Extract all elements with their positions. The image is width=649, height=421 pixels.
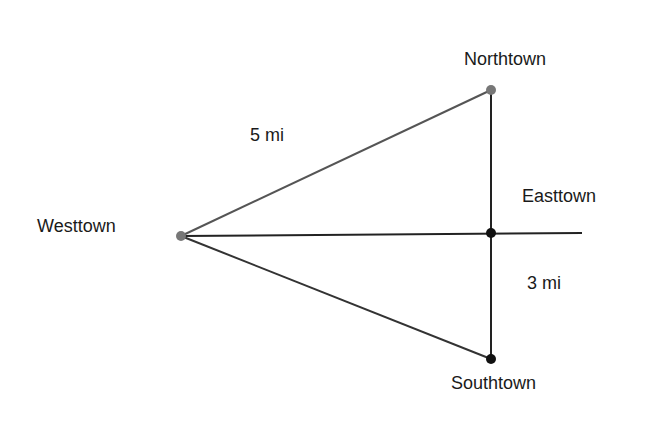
town-diagram [0, 0, 649, 421]
node-westtown-dot [176, 231, 186, 241]
node-northtown-dot [486, 85, 496, 95]
edge-westtown-east-horizontal [181, 233, 582, 236]
label-northtown: Northtown [464, 50, 546, 68]
label-southtown: Southtown [451, 374, 536, 392]
distance-label-3mi: 3 mi [527, 274, 561, 292]
edge-westtown-northtown [181, 90, 491, 236]
node-easttown-dot [486, 228, 496, 238]
edge-westtown-southtown [181, 236, 491, 359]
node-southtown-dot [486, 354, 496, 364]
label-westtown: Westtown [37, 217, 116, 235]
label-easttown: Easttown [522, 187, 596, 205]
distance-label-5mi: 5 mi [250, 126, 284, 144]
